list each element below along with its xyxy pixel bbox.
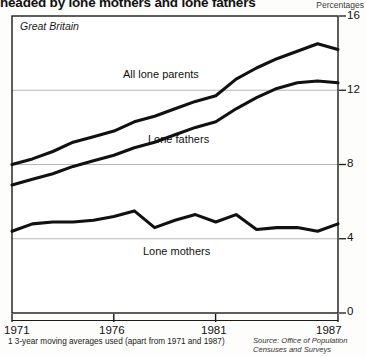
chart-container: Great Britain All lone parents Lone fath… xyxy=(0,0,366,357)
y-axis-tick-12: 12 xyxy=(347,83,360,95)
footnote: 1 3-year moving averages used (apart fro… xyxy=(8,337,225,346)
source-note: Source: Office of Population Censuses an… xyxy=(253,336,365,355)
region-label: Great Britain xyxy=(20,20,79,32)
x-axis-tick-1976: 1976 xyxy=(99,324,125,336)
y-axis-tick-4: 4 xyxy=(347,231,353,243)
y-axis-tick-8: 8 xyxy=(347,157,353,169)
source-line-2: Censuses and Surveys xyxy=(253,345,331,354)
source-line-1: Source: Office of Population xyxy=(253,336,348,345)
series-label-lone-fathers: Lone fathers xyxy=(148,133,209,145)
x-axis-tick-1981: 1981 xyxy=(201,324,227,336)
line-chart-svg xyxy=(0,0,366,357)
y-axis-tick-16: 16 xyxy=(347,9,360,21)
x-axis-tick-1987: 1987 xyxy=(316,324,342,336)
x-axis-tick-1971: 1971 xyxy=(4,324,30,336)
series-label-lone-mothers: Lone mothers xyxy=(143,245,210,257)
series-label-all-lone-parents: All lone parents xyxy=(123,68,199,80)
y-axis-tick-0: 0 xyxy=(347,305,353,317)
